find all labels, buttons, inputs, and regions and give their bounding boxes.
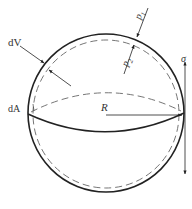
equator-front <box>28 113 184 132</box>
label-dV: dV <box>8 36 21 48</box>
thickness-arrow <box>49 70 71 86</box>
outer-sphere <box>28 34 184 192</box>
label-sigma: σ <box>181 53 186 64</box>
label-dA: dA <box>8 103 20 114</box>
dV-leader-arrow <box>20 46 44 63</box>
sphere-diagram <box>0 0 192 209</box>
label-R: R <box>101 101 108 113</box>
inner-sphere-dashed <box>33 40 179 188</box>
